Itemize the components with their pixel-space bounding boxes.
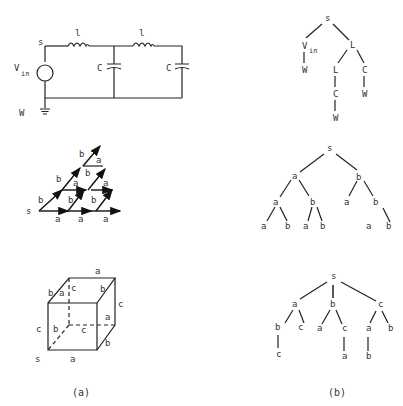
tree3-node: b	[388, 323, 393, 333]
cube-diagram: a b a c b c a c b c b a s	[35, 266, 123, 364]
tree1-node: L	[333, 65, 338, 75]
tree2-node: b	[356, 172, 361, 182]
tree2-node: s	[327, 143, 332, 153]
lattice-edge-label: a	[78, 214, 83, 224]
cube-edge-label: b	[53, 324, 58, 334]
tree2-node: b	[310, 197, 315, 207]
ground-label: W	[19, 108, 25, 118]
lattice-edge-label: b	[56, 174, 61, 184]
tree3-node: b	[330, 299, 335, 309]
ground-icon	[40, 109, 50, 114]
inductor-1-label: l	[75, 28, 80, 38]
cube-edge-label: c	[36, 324, 41, 334]
inductor-1-icon	[68, 43, 89, 46]
tree3-node: s	[331, 271, 336, 281]
lattice-source-label: s	[26, 206, 31, 216]
tree1-node: V	[302, 41, 308, 51]
capacitor-2-label: C	[166, 63, 171, 73]
tree2-node: a	[292, 171, 297, 181]
tree1-node: W	[302, 65, 308, 75]
cube-edge-label: a	[70, 354, 75, 364]
tree3-node: c	[342, 323, 347, 333]
tree1-node-subscript: in	[309, 47, 317, 55]
tree1-node: s	[325, 13, 330, 23]
vin-subscript: in	[21, 70, 29, 78]
tree3-node: a	[317, 323, 322, 333]
tree3-node: c	[298, 322, 303, 332]
lattice-edge-label: a	[73, 178, 78, 188]
lattice-edge-label: a	[96, 155, 101, 165]
tree1-node: W	[362, 89, 368, 99]
caption-a: (a)	[72, 387, 90, 398]
tree3-node: b	[275, 322, 280, 332]
tree-2: s a b a b a b a b a b a b	[261, 143, 391, 231]
cube-edge-label: c	[118, 299, 123, 309]
lattice-edge-label: b	[79, 149, 84, 159]
tree2-node: a	[261, 221, 266, 231]
inductor-2-label: l	[139, 28, 144, 38]
capacitor-1-icon	[107, 64, 121, 98]
cube-edge-label: c	[71, 283, 76, 293]
cube-edge-label: a	[105, 312, 110, 322]
cube-edge-label: b	[48, 288, 53, 298]
inductor-2-icon	[133, 43, 154, 46]
tree2-node: a	[303, 221, 308, 231]
vin-label: V	[14, 63, 20, 73]
cube-source-label: s	[35, 354, 40, 364]
tree-3: s a b c b c a c a b c a b	[275, 271, 393, 361]
caption-b: (b)	[328, 387, 346, 398]
tree2-node: a	[273, 197, 278, 207]
circuit-diagram: s V in W l l C C	[14, 28, 189, 118]
capacitor-2-icon	[175, 64, 189, 98]
tree3-node: a	[342, 351, 347, 361]
lattice-edge-label: b	[91, 195, 96, 205]
tree2-node: b	[285, 221, 290, 231]
capacitor-1-label: C	[97, 63, 102, 73]
cube-edge-label: c	[81, 325, 86, 335]
tree3-node: b	[366, 351, 371, 361]
tree2-node: b	[373, 197, 378, 207]
tree3-node: a	[366, 323, 371, 333]
tree3-node: c	[378, 299, 383, 309]
lattice-edge-label: a	[55, 214, 60, 224]
tree1-node: C	[333, 89, 338, 99]
tree1-node: W	[333, 113, 339, 123]
tree2-node: b	[320, 221, 325, 231]
cube-edge-label: a	[95, 266, 100, 276]
tree1-node: C	[362, 65, 367, 75]
lattice-edge-label: b	[68, 195, 73, 205]
lattice-edge-label: a	[103, 214, 108, 224]
cube-edge-label: a	[59, 288, 64, 298]
lattice-edge-label: b	[38, 195, 43, 205]
tree-1: s V in L W L C C W W	[302, 13, 368, 123]
voltage-source-icon	[37, 65, 53, 81]
circuit-source-label: s	[38, 37, 43, 47]
tree1-node: L	[350, 40, 355, 50]
figure-canvas: s V in W l l C C s b b b b b b a a a a	[0, 0, 403, 406]
tree2-node: a	[344, 197, 349, 207]
lattice-diagram: s b b b b b b a a a a a a	[26, 146, 120, 224]
cube-edge-label: b	[105, 338, 110, 348]
tree3-node: a	[292, 299, 297, 309]
cube-edge-label: b	[100, 284, 105, 294]
tree3-node: c	[276, 349, 281, 359]
lattice-edge-label: a	[103, 178, 108, 188]
tree2-node: a	[366, 221, 371, 231]
lattice-edge-label: b	[85, 168, 90, 178]
tree2-node: b	[386, 221, 391, 231]
